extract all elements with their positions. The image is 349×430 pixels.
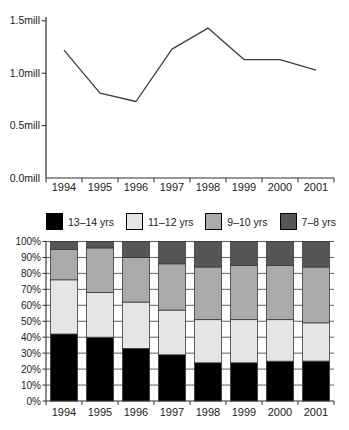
bar-segment — [51, 280, 78, 334]
x-tick-label: 1998 — [196, 181, 220, 193]
bar-segment — [159, 355, 186, 401]
legend-label: 9–10 yrs — [227, 216, 267, 228]
x-tick-label: 1998 — [196, 406, 220, 418]
y-tick-label: 60% — [21, 300, 41, 311]
legend-item-11-12-yrs: 11–12 yrs — [126, 213, 193, 230]
bar-segment — [195, 242, 222, 268]
bar-segment — [267, 265, 294, 319]
bar-1995 — [87, 242, 114, 402]
bar-segment — [231, 320, 258, 363]
bar-1997 — [159, 242, 186, 402]
y-tick-label: 0.0mill — [10, 172, 40, 184]
bar-segment — [51, 250, 78, 280]
bar-segment — [195, 267, 222, 320]
y-tick-label: 80% — [21, 268, 41, 279]
legend-swatch-icon — [205, 213, 222, 230]
bar-segment — [123, 348, 150, 401]
x-tick-label: 1995 — [88, 406, 112, 418]
legend-swatch-icon — [126, 213, 143, 230]
bar-1998 — [195, 242, 222, 402]
x-tick-label: 1999 — [232, 181, 256, 193]
legend-label: 11–12 yrs — [148, 216, 193, 228]
figure: 0.0mill0.5mill1.0mill1.5mill199419951996… — [0, 0, 349, 430]
bar-2001 — [303, 242, 330, 402]
bar-segment — [267, 242, 294, 266]
x-tick-label: 1999 — [232, 406, 256, 418]
x-tick-label: 2001 — [304, 406, 328, 418]
x-tick-label: 2001 — [304, 181, 328, 193]
legend-item-7-8-yrs: 7–8 yrs — [280, 213, 336, 230]
y-tick-label: 0% — [27, 396, 42, 407]
bar-segment — [123, 242, 150, 258]
bar-segment — [51, 334, 78, 401]
legend-item-13-14-yrs: 13–14 yrs — [46, 213, 114, 230]
bar-segment — [303, 242, 330, 268]
y-tick-label: 0.5mill — [10, 119, 40, 131]
x-tick-label: 2000 — [268, 181, 292, 193]
bar-segment — [87, 337, 114, 401]
bar-segment — [87, 293, 114, 338]
bar-segment — [231, 265, 258, 319]
x-tick-label: 1997 — [160, 181, 184, 193]
stacked-bar-chart: 0%10%20%30%40%50%60%70%80%90%100%1994199… — [0, 236, 349, 430]
bar-chart-legend: 13–14 yrs11–12 yrs9–10 yrs7–8 yrs — [46, 212, 336, 231]
x-tick-label: 1997 — [160, 406, 184, 418]
x-tick-label: 1995 — [88, 181, 112, 193]
y-tick-label: 90% — [21, 252, 41, 263]
bar-segment — [159, 242, 186, 264]
bar-segment — [123, 257, 150, 302]
x-tick-label: 2000 — [268, 406, 292, 418]
y-tick-label: 100% — [15, 236, 41, 247]
bar-segment — [123, 302, 150, 348]
bar-segment — [159, 264, 186, 310]
x-tick-label: 1996 — [124, 406, 148, 418]
y-tick-label: 10% — [21, 380, 41, 391]
bar-segment — [303, 361, 330, 401]
bar-1999 — [231, 242, 258, 402]
y-tick-label: 30% — [21, 348, 41, 359]
bar-1996 — [123, 242, 150, 402]
x-tick-label: 1994 — [52, 406, 76, 418]
bar-segment — [51, 242, 78, 250]
bar-segment — [303, 267, 330, 323]
legend-label: 7–8 yrs — [302, 216, 336, 228]
y-tick-label: 50% — [21, 316, 41, 327]
x-tick-label: 1994 — [52, 181, 76, 193]
bar-segment — [303, 323, 330, 361]
x-tick-label: 1996 — [124, 181, 148, 193]
bar-2000 — [267, 242, 294, 402]
y-tick-label: 1.5mill — [10, 14, 40, 26]
line-chart: 0.0mill0.5mill1.0mill1.5mill199419951996… — [0, 0, 349, 200]
bar-segment — [231, 242, 258, 266]
legend-swatch-icon — [46, 213, 63, 230]
legend-swatch-icon — [280, 213, 297, 230]
data-line — [64, 28, 316, 101]
y-tick-label: 20% — [21, 364, 41, 375]
bar-1994 — [51, 242, 78, 402]
bar-segment — [87, 242, 114, 248]
y-tick-label: 1.0mill — [10, 67, 40, 79]
y-tick-label: 70% — [21, 284, 41, 295]
bar-segment — [87, 248, 114, 293]
bar-segment — [195, 363, 222, 401]
bar-segment — [267, 361, 294, 401]
legend-label: 13–14 yrs — [68, 216, 114, 228]
y-tick-label: 40% — [21, 332, 41, 343]
bar-segment — [195, 320, 222, 363]
bar-segment — [159, 310, 186, 355]
legend-item-9-10-yrs: 9–10 yrs — [205, 213, 267, 230]
bar-segment — [231, 363, 258, 401]
bar-segment — [267, 320, 294, 362]
